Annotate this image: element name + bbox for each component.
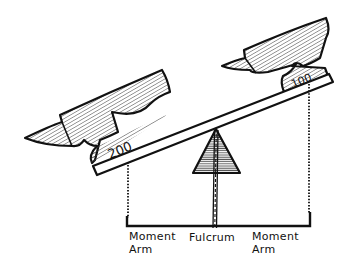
right-moment-arm-label-2: Arm: [252, 243, 275, 256]
right-moment-arm-label-1: Moment: [252, 230, 299, 243]
fulcrum-post: [213, 130, 218, 228]
left-moment-arm-label-1: Moment: [129, 230, 176, 243]
lever-diagram: 200 100 Moment Arm Fulcrum Moment Arm: [0, 0, 355, 272]
left-moment-arm-label-2: Arm: [129, 243, 152, 256]
fulcrum-label: Fulcrum: [189, 231, 235, 244]
moment-arm-bracket: [127, 212, 310, 226]
